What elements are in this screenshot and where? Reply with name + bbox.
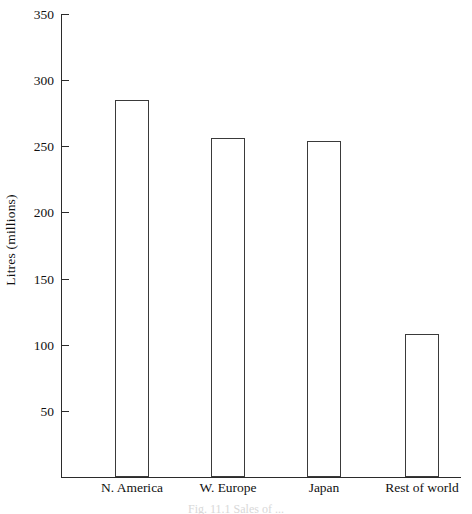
- y-axis-tick: [62, 80, 69, 81]
- y-axis-tick: [62, 279, 69, 280]
- bar: [115, 100, 149, 477]
- figure-caption: Fig. 11.1 Sales of ...: [0, 503, 472, 514]
- y-axis-tick: [62, 212, 69, 213]
- y-axis-tick-label: 300: [34, 74, 54, 88]
- x-axis-category-label: W. Europe: [199, 481, 256, 495]
- y-axis-tick-label: 100: [34, 339, 54, 353]
- y-axis-tick-label: 150: [34, 273, 54, 287]
- bar: [211, 138, 245, 477]
- y-axis-tick: [62, 411, 69, 412]
- y-axis-tick-label: 350: [34, 8, 54, 22]
- x-axis-category-label: N. America: [101, 481, 163, 495]
- bar: [307, 141, 341, 477]
- y-axis-tick-label: 250: [34, 140, 54, 154]
- y-axis-tick-label: 50: [41, 405, 55, 419]
- y-axis-tick-labels: 50100150200250300350: [0, 14, 54, 478]
- plot-area: [61, 14, 461, 478]
- bar: [405, 334, 439, 477]
- y-axis-tick-label: 200: [34, 206, 54, 220]
- x-axis-line: [61, 477, 461, 478]
- y-axis-line: [61, 14, 62, 478]
- y-axis-tick: [62, 14, 69, 15]
- y-axis-tick: [62, 345, 69, 346]
- x-axis-category-label: Rest of world: [385, 481, 459, 495]
- bar-chart-figure: Litres (millions) 50100150200250300350 N…: [0, 0, 472, 514]
- y-axis-tick: [62, 146, 69, 147]
- x-axis-category-label: Japan: [309, 481, 340, 495]
- x-axis-category-labels: N. AmericaW. EuropeJapanRest of world: [61, 481, 472, 501]
